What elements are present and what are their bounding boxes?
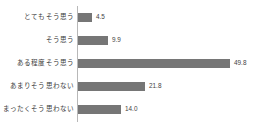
category-label: あまりそう思わない (10, 83, 74, 90)
bar-chart: とてもそう思う 4.5 そう思う 9.9 ある程度そう思う 49.8 あまりそう… (0, 0, 271, 128)
bar (78, 82, 145, 91)
chart-row: あまりそう思わない 21.8 (0, 75, 271, 97)
bar-track (78, 36, 108, 45)
bar (78, 36, 108, 45)
chart-row: まったくそう思わない 14.0 (0, 98, 271, 120)
value-label: 14.0 (125, 106, 137, 112)
chart-row: そう思う 9.9 (0, 29, 271, 51)
chart-row: とてもそう思う 4.5 (0, 6, 271, 28)
category-label: そう思う (46, 37, 74, 44)
value-label: 21.8 (149, 83, 161, 89)
category-label: とてもそう思う (24, 14, 74, 21)
value-label: 4.5 (96, 14, 105, 20)
bar-track (78, 13, 92, 22)
value-label: 9.9 (112, 37, 121, 43)
bar (78, 105, 121, 114)
category-label: まったくそう思わない (3, 106, 74, 113)
bar (78, 59, 230, 68)
value-label: 49.8 (234, 60, 246, 66)
bar-track (78, 105, 121, 114)
bar-track (78, 59, 230, 68)
bar-track (78, 82, 145, 91)
chart-row: ある程度そう思う 49.8 (0, 52, 271, 74)
bar (78, 13, 92, 22)
category-label: ある程度そう思う (17, 60, 74, 67)
